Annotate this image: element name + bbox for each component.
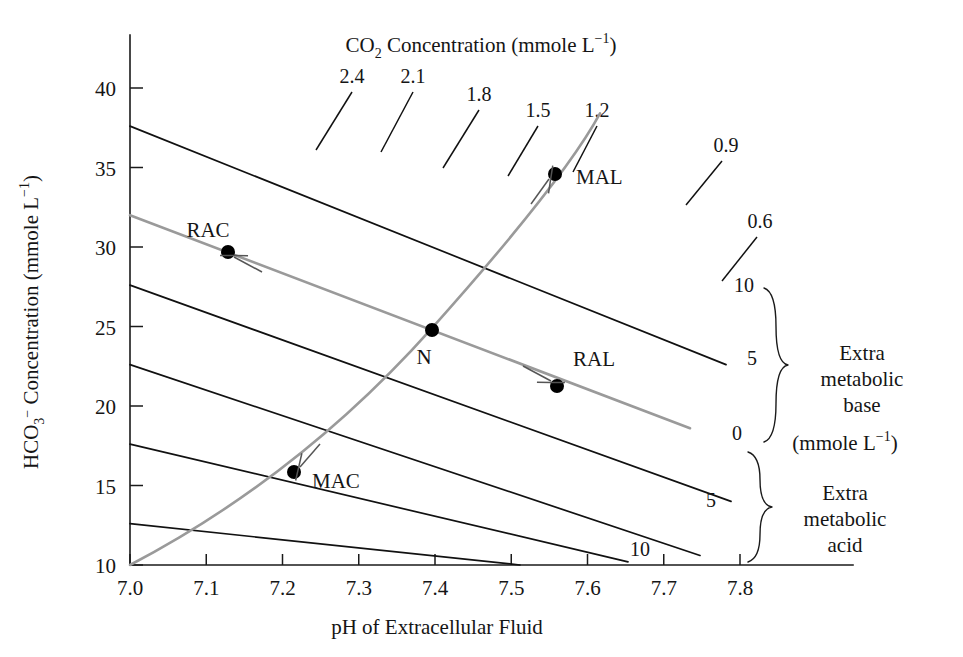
co2-isopleth-label: 0.6 [748,210,773,232]
co2-isopleth-label: 1.8 [467,83,492,105]
co2-isopleth-label: 2.1 [401,65,426,87]
data-point-label-rac: RAC [186,218,229,242]
co2-isopleth-leader [508,126,538,176]
co2-isopleth-leader [686,161,722,205]
x-tick-label: 7.8 [727,576,753,600]
davenport-diagram-figure: 7.07.17.27.37.47.57.67.77.8 101520253035… [0,0,963,657]
co2-isopleth-leader [381,92,413,152]
data-point-label-n: N [416,345,431,369]
y-axis-ticks [130,88,143,565]
annotation-metabolic-units: (mmole L−1) [792,429,897,455]
data-points [221,167,564,479]
blood-buffer-line [130,215,690,428]
metabolic-line [130,444,628,562]
metabolic-line-label: 5 [747,347,757,369]
chart-canvas: 7.07.17.27.37.47.57.67.77.8 101520253035… [0,0,963,657]
metabolic-line-label: 0 [732,422,742,444]
metabolic-line [130,524,520,565]
data-point-label-mal: MAL [576,165,623,189]
data-point-arrows [220,166,565,481]
x-tick-label: 7.2 [269,576,295,600]
data-point-arrowhead [549,179,551,193]
metabolic-line-label: 10 [630,538,650,560]
metabolic-line-label: 10 [734,274,754,296]
annotation-extra-metabolic-base: Extrametabolicbase [821,341,904,417]
y-tick-label: 15 [95,475,116,499]
x-tick-label: 7.6 [574,576,600,600]
metabolic-line [130,285,731,501]
side-annotations: Extrametabolicbase(mmole L−1)Extrametabo… [792,341,903,557]
x-tick-label: 7.7 [651,576,677,600]
co2-isopleth-label: 0.9 [714,134,739,156]
data-point-n [425,323,439,337]
x-tick-label: 7.3 [346,576,372,600]
x-axis-tick-labels: 7.07.17.27.37.47.57.67.77.8 [117,576,753,600]
co2-isopleth-labels: 2.42.11.81.51.20.90.6 [340,65,773,232]
annotation-braces [748,288,788,562]
y-tick-label: 25 [95,316,116,340]
y-tick-label: 30 [95,236,116,260]
metabolic-line-labels: 1050510 [630,274,757,560]
x-tick-label: 7.0 [117,576,143,600]
data-point-arrow [300,444,320,467]
metabolic-line-label: 5 [706,489,716,511]
data-point-ral [550,379,564,393]
co2-isopleth-label: 1.5 [526,99,551,121]
data-point-rac [221,245,235,259]
co2-isopleth-leader [443,110,479,168]
brace-extra-metabolic-acid [748,452,772,562]
y-tick-label: 10 [95,554,116,578]
data-point-label-mac: MAC [312,469,360,493]
y-tick-label: 40 [95,77,116,101]
chart-title: CO2 Concentration (mmole L−1) [346,31,617,61]
co2-isopleth-label: 2.4 [340,65,365,87]
brace-extra-metabolic-base [764,288,788,442]
co2-isopleth-grey-line [130,113,600,565]
y-axis-tick-labels: 10152025303540 [95,77,116,578]
axes: 7.07.17.27.37.47.57.67.77.8 101520253035… [95,35,853,600]
y-tick-label: 20 [95,395,116,419]
x-tick-label: 7.1 [193,576,219,600]
x-tick-label: 7.4 [422,576,449,600]
x-tick-label: 7.5 [498,576,524,600]
y-axis-title: HCO3− Concentration (mmole L−1) [17,175,47,469]
co2-isopleth-leader [316,92,352,150]
data-point-label-ral: RAL [573,347,615,371]
y-tick-label: 35 [95,157,116,181]
annotation-extra-metabolic-acid: Extrametabolicacid [804,481,887,557]
x-axis-title: pH of Extracellular Fluid [331,615,543,639]
